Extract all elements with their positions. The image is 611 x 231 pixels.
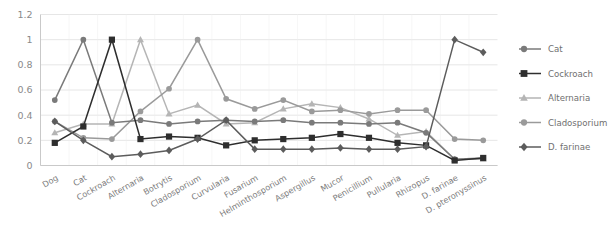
data-point-marker [52,118,59,126]
data-point-marker [137,136,143,142]
data-point-marker [521,119,527,125]
data-point-marker [309,135,315,141]
chart-canvas: 00.20.40.60.811.2 DogCatCockroachAlterna… [0,0,611,231]
legend-item-d-farinae[interactable]: D. farinae [519,142,590,152]
data-point-marker [394,145,401,153]
data-point-marker [195,119,201,125]
data-point-marker [338,120,344,126]
data-point-marker [338,107,344,113]
data-point-marker [252,119,258,125]
line-chart: 00.20.40.60.811.2 DogCatCockroachAlterna… [0,0,611,231]
data-point-marker [309,145,316,153]
data-point-marker [195,37,201,43]
y-tick-label: 0.8 [17,59,32,70]
series-line [55,40,483,161]
data-point-marker [480,155,486,161]
data-point-marker [280,117,286,123]
data-point-marker [452,157,458,163]
data-point-marker [395,107,401,113]
data-point-marker [423,130,429,136]
data-point-marker [452,136,458,142]
data-point-marker [280,145,287,153]
x-tick-label: Dog [40,173,59,190]
y-tick-label: 0.6 [17,84,32,95]
data-point-marker [366,121,372,127]
chart-legend: CatCockroachAlternariaCladosporiumD. far… [519,44,607,152]
legend-item-cat[interactable]: Cat [519,44,563,54]
data-point-marker [52,140,58,146]
data-point-marker [308,100,315,106]
data-point-marker [166,133,172,139]
data-point-marker [166,147,173,155]
x-axis-tick-labels: DogCatCockroachAlternariaBotrytisCladosp… [40,172,488,219]
data-point-marker [280,136,286,142]
y-tick-label: 0.4 [17,110,32,121]
data-point-marker [366,111,372,117]
data-point-marker [451,36,458,44]
data-point-marker [395,120,401,126]
data-point-marker [480,48,487,56]
legend-label: Cladosporium [548,118,607,128]
x-tick-label: Cat [71,172,89,188]
data-point-marker [252,137,258,143]
data-point-marker [138,109,144,115]
legend-label: Alternaria [548,93,590,103]
legend-item-cockroach[interactable]: Cockroach [519,69,593,79]
data-point-marker [138,117,144,123]
data-point-marker [109,120,115,126]
data-point-marker [394,140,400,146]
data-point-marker [520,143,527,152]
data-point-marker [223,142,229,148]
data-point-marker [137,36,144,42]
data-point-marker [80,123,86,129]
data-point-marker [521,46,527,52]
data-point-marker [309,109,315,115]
data-point-marker [337,144,344,152]
data-point-marker [366,135,372,141]
legend-item-alternaria[interactable]: Alternaria [519,93,590,103]
data-point-marker [223,96,229,102]
y-tick-label: 1 [26,34,32,45]
data-point-marker [337,131,343,137]
data-point-marker [80,37,86,43]
data-point-marker [109,37,115,43]
y-tick-label: 0.2 [17,135,32,146]
data-point-marker [109,153,116,161]
data-point-marker [521,70,528,77]
data-point-marker [423,107,429,113]
legend-label: Cat [548,44,563,54]
data-point-marker [309,120,315,126]
data-point-marker [194,102,201,108]
legend-label: D. farinae [548,142,590,152]
data-point-marker [109,136,115,142]
data-point-marker [280,97,286,103]
data-point-marker [52,97,58,103]
data-point-marker [252,106,258,112]
data-point-marker [480,137,486,143]
y-axis-tick-labels: 00.20.40.60.811.2 [17,9,32,171]
data-point-marker [366,145,373,153]
legend-label: Cockroach [548,69,593,79]
data-point-marker [137,150,144,158]
data-point-marker [166,86,172,92]
legend-item-cladosporium[interactable]: Cladosporium [519,118,607,128]
y-tick-label: 0 [26,160,32,171]
data-point-marker [166,121,172,127]
y-tick-label: 1.2 [17,9,32,20]
